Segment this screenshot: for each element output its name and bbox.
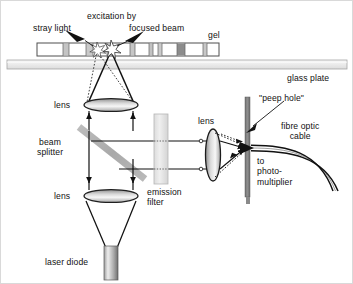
laser-diode-body [104,246,118,280]
label-lens-right: lens [198,116,214,126]
lens-right [206,129,221,181]
diagram-canvas: stray light excitation by focused beam g… [0,0,353,284]
label-fibre-optic-cable: fibre optic cable [281,121,319,142]
lens-top [84,99,138,112]
label-gel: gel [208,30,220,40]
label-glass-plate: glass plate [287,73,329,83]
gel-strip [37,43,219,56]
laser-cone [86,201,136,248]
label-beam-splitter: beam splitter [37,137,63,158]
label-focused-beam: focused beam [129,23,184,33]
glass-plate [7,60,347,69]
label-excitation-by: excitation by [87,11,136,21]
label-lens-bottom: lens [54,191,70,201]
bar-foot-shadow [246,197,250,204]
label-laser-diode: laser diode [45,257,88,267]
beam-path-vertical-upper [89,111,133,131]
peep-hole-leader [246,101,284,133]
label-to-photomultiplier: to photo- multiplier [257,156,292,187]
stray-light-rays [87,51,133,102]
lens-bottom [84,190,138,203]
emission-filter [154,114,168,184]
label-peep-hole: "peep hole" [259,93,304,103]
label-emission-filter: emission filter [147,187,182,208]
label-lens-top: lens [54,100,70,110]
label-stray-light: stray light [33,23,71,33]
